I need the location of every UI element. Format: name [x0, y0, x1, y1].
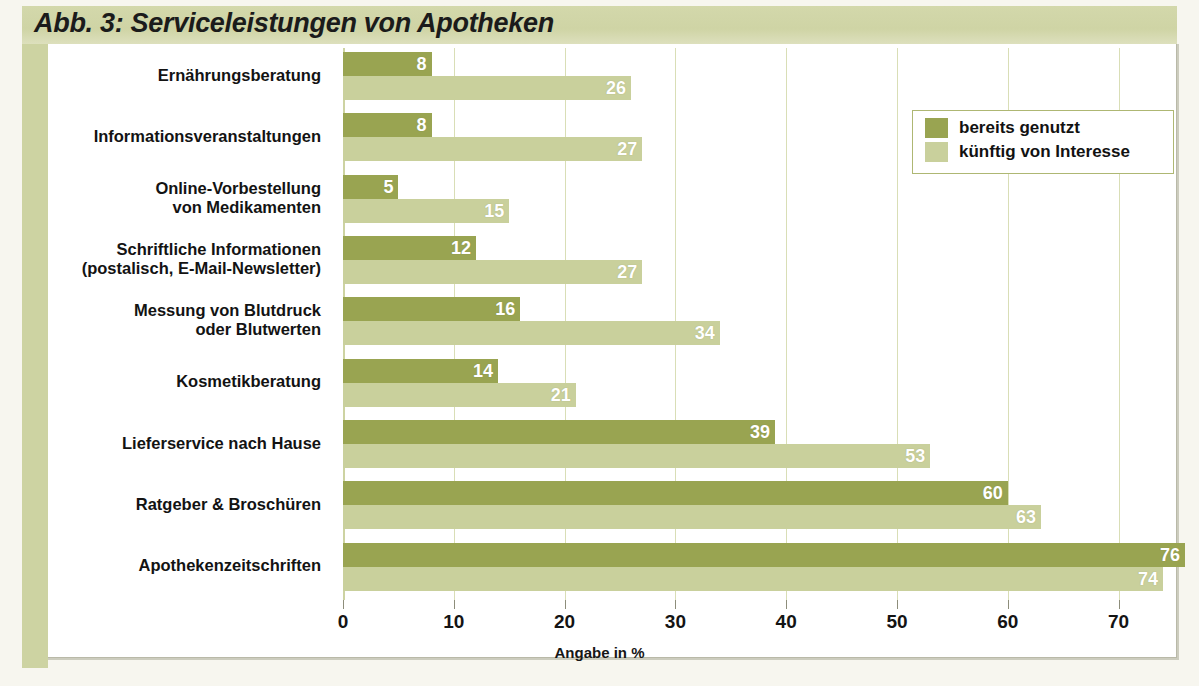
category-label-line: Messung von Blutdruck	[134, 301, 321, 320]
bar-value-label: 14	[473, 361, 493, 379]
x-axis-title: Angabe in %	[0, 644, 1199, 661]
x-axis-tick-label: 30	[665, 611, 686, 633]
figure-container: Abb. 3: Serviceleistungen von Apotheken …	[0, 0, 1199, 686]
bar-value-label: 76	[1160, 545, 1180, 563]
chart-legend: bereits genutzt künftig von Interesse	[912, 110, 1174, 174]
bar-value-label: 27	[617, 263, 637, 281]
bar-value-label: 16	[495, 300, 515, 318]
bar-value-label: 5	[383, 177, 393, 195]
bar-value-label: 15	[484, 201, 504, 219]
bar: 8	[343, 52, 432, 76]
bar: 15	[343, 199, 509, 223]
category-label: Apothekenzeitschriften	[139, 556, 321, 575]
x-axis-tick	[454, 600, 455, 609]
category-label-line: Ernährungsberatung	[158, 66, 321, 85]
x-axis-tick-label: 40	[776, 611, 797, 633]
legend-label-used: bereits genutzt	[959, 118, 1080, 138]
x-axis-tick	[1119, 600, 1120, 609]
x-axis-tick	[1008, 600, 1009, 609]
category-label: Messung von Blutdruckoder Blutwerten	[134, 301, 321, 339]
category-label: Lieferservice nach Hause	[122, 434, 321, 453]
bar: 14	[343, 359, 498, 383]
bar: 74	[343, 567, 1163, 591]
bar: 16	[343, 297, 520, 321]
bar: 63	[343, 505, 1041, 529]
category-label-line: Apothekenzeitschriften	[139, 556, 321, 575]
bar: 53	[343, 444, 930, 468]
category-label-line: Schriftliche Informationen	[82, 240, 321, 259]
bar-value-label: 60	[983, 484, 1003, 502]
bar-value-label: 63	[1016, 508, 1036, 526]
x-axis-tick-label: 0	[338, 611, 349, 633]
x-axis-tick	[675, 600, 676, 609]
category-label-line: Informationsveranstaltungen	[94, 127, 321, 146]
bar: 8	[343, 113, 432, 137]
bar: 5	[343, 175, 398, 199]
x-axis-tick-label: 60	[997, 611, 1018, 633]
category-label-line: Online-Vorbestellung	[155, 179, 321, 198]
bar: 76	[343, 543, 1185, 567]
bar: 60	[343, 481, 1008, 505]
bar-value-label: 39	[750, 423, 770, 441]
bar: 12	[343, 236, 476, 260]
bar-value-label: 27	[617, 140, 637, 158]
x-axis-tick	[343, 600, 344, 609]
x-axis-tick	[565, 600, 566, 609]
bar-value-label: 26	[606, 79, 626, 97]
category-label-line: Ratgeber & Broschüren	[136, 495, 321, 514]
legend-item-used: bereits genutzt	[925, 118, 1173, 138]
category-label: Ernährungsberatung	[158, 66, 321, 85]
legend-swatch-future-icon	[925, 142, 948, 162]
bar: 27	[343, 137, 642, 161]
decorative-left-band	[22, 6, 48, 668]
bar: 39	[343, 420, 775, 444]
category-label-line: von Medikamenten	[155, 198, 321, 217]
bar: 27	[343, 260, 642, 284]
legend-swatch-used-icon	[925, 118, 948, 138]
legend-item-future: künftig von Interesse	[925, 142, 1173, 162]
category-label: Ratgeber & Broschüren	[136, 495, 321, 514]
x-axis-tick-label: 70	[1108, 611, 1129, 633]
x-axis-tick-label: 10	[443, 611, 464, 633]
category-label: Online-Vorbestellungvon Medikamenten	[155, 179, 321, 217]
bar: 34	[343, 321, 720, 345]
category-label-line: (postalisch, E-Mail-Newsletter)	[82, 259, 321, 278]
bar-value-label: 8	[417, 116, 427, 134]
bar-value-label: 74	[1138, 569, 1158, 587]
bar-value-label: 8	[417, 55, 427, 73]
x-axis-tick	[897, 600, 898, 609]
bar: 21	[343, 383, 576, 407]
bar-value-label: 21	[551, 385, 571, 403]
category-label: Kosmetikberatung	[176, 372, 321, 391]
category-label: Informationsveranstaltungen	[94, 127, 321, 146]
x-axis-tick-label: 20	[554, 611, 575, 633]
bar-value-label: 53	[905, 447, 925, 465]
category-label: Schriftliche Informationen(postalisch, E…	[82, 240, 321, 278]
bar: 26	[343, 76, 631, 100]
category-label-line: Kosmetikberatung	[176, 372, 321, 391]
category-label-line: oder Blutwerten	[134, 320, 321, 339]
x-axis-tick	[786, 600, 787, 609]
x-axis-tick-label: 50	[886, 611, 907, 633]
legend-label-future: künftig von Interesse	[959, 142, 1130, 162]
category-label-line: Lieferservice nach Hause	[122, 434, 321, 453]
figure-title: Abb. 3: Serviceleistungen von Apotheken	[34, 8, 554, 39]
bar-value-label: 12	[451, 239, 471, 257]
bar-value-label: 34	[695, 324, 715, 342]
